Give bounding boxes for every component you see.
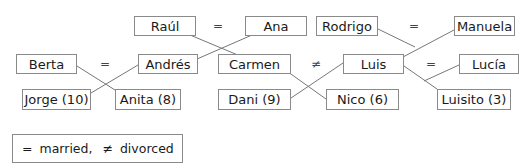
line-manuela-to-luis bbox=[403, 30, 454, 57]
person-name: Dani (9) bbox=[228, 92, 280, 107]
divorced-symbol: ≠ bbox=[311, 57, 321, 71]
person-berta: Berta bbox=[16, 54, 77, 74]
person-name: Ana bbox=[263, 19, 288, 34]
married-symbol: = bbox=[100, 57, 110, 71]
person-anita: Anita (8) bbox=[115, 89, 181, 110]
married-symbol: = bbox=[409, 19, 419, 33]
person-name: Berta bbox=[29, 57, 64, 72]
person-raul: Raúl bbox=[134, 16, 196, 36]
person-carmen: Carmen bbox=[218, 54, 291, 74]
person-andres: Andrés bbox=[138, 54, 198, 74]
person-name: Luisito (3) bbox=[442, 92, 507, 107]
legend-divorced-symbol: ≠ bbox=[102, 141, 112, 156]
person-luis: Luis bbox=[343, 54, 404, 74]
person-name: Rodrigo bbox=[322, 19, 372, 34]
married-symbol: = bbox=[213, 19, 223, 33]
legend: = married, ≠ divorced bbox=[12, 134, 183, 163]
person-nico: Nico (6) bbox=[326, 89, 399, 110]
person-manuela: Manuela bbox=[454, 16, 515, 36]
person-rodrigo: Rodrigo bbox=[316, 16, 378, 36]
married-symbol: = bbox=[426, 57, 436, 71]
person-dani: Dani (9) bbox=[218, 89, 291, 110]
person-ana: Ana bbox=[245, 16, 307, 36]
person-name: Andrés bbox=[145, 57, 190, 72]
person-lucia: Lucía bbox=[459, 54, 519, 74]
person-name: Manuela bbox=[457, 19, 512, 34]
person-name: Carmen bbox=[229, 57, 280, 72]
person-jorge: Jorge (10) bbox=[22, 89, 91, 110]
person-name: Raúl bbox=[151, 19, 180, 34]
person-name: Luis bbox=[361, 57, 387, 72]
person-name: Jorge (10) bbox=[25, 92, 89, 107]
person-name: Anita (8) bbox=[120, 92, 176, 107]
legend-divorced-label: divorced bbox=[120, 141, 174, 156]
legend-married-symbol: = bbox=[22, 141, 32, 156]
person-name: Nico (6) bbox=[337, 92, 388, 107]
legend-married-label: married, bbox=[39, 141, 92, 156]
person-luisito: Luisito (3) bbox=[437, 89, 511, 110]
person-name: Lucía bbox=[472, 57, 506, 72]
